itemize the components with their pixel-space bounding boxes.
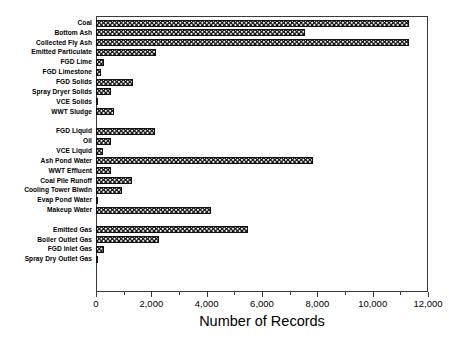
bar-wwt-sludge (96, 108, 114, 115)
y-axis-label-makeup-water: Makeup Water (0, 206, 92, 213)
x-tick-0 (96, 292, 97, 297)
x-tick-label-6000: 6,000 (250, 298, 274, 309)
x-tick-label-12000: 12,000 (413, 298, 442, 309)
y-axis-label-ash-pond-water: Ash Pond Water (0, 157, 92, 164)
y-axis-label-fgd-limestone: FGD Limestone (0, 68, 92, 75)
y-axis-label-wwt-effluent: WWT Effluent (0, 167, 92, 174)
y-axis-label-bottom-ash: Bottom Ash (0, 29, 92, 36)
x-tick-8000 (317, 292, 318, 297)
y-axis-label-vce-liquid: VCE Liquid (0, 147, 92, 154)
x-tick-label-4000: 4,000 (195, 298, 219, 309)
x-tick-label-0: 0 (93, 298, 98, 309)
bar-vce-liquid (96, 148, 103, 155)
bar-ash-pond-water (96, 157, 313, 164)
y-axis-label-emitted-gas: Emitted Gas (0, 226, 92, 233)
bar-wwt-effluent (96, 167, 111, 174)
bar-coal (96, 20, 409, 27)
x-tick-10000 (373, 292, 374, 297)
y-axis-label-spray-dryer-solids: Spray Dryer Solids (0, 88, 92, 95)
y-axis-label-fgd-solids: FGD Solids (0, 78, 92, 85)
bar-makeup-water (96, 207, 211, 214)
bar-fgd-liquid (96, 128, 155, 135)
x-tick-6000 (262, 292, 263, 297)
bar-fgd-inlet-gas (96, 246, 104, 253)
y-axis-label-spray-dry-outlet-gas: Spray Dry Outlet Gas (0, 255, 92, 262)
bar-emitted-particulate (96, 49, 156, 56)
x-axis-title: Number of Records (96, 313, 428, 329)
bar-oil (96, 138, 111, 145)
x-tick-2000 (151, 292, 152, 297)
bar-emitted-gas (96, 226, 248, 233)
bar-bottom-ash (96, 29, 305, 36)
bar-fgd-lime (96, 59, 104, 66)
y-axis-label-oil: Oil (0, 137, 92, 144)
y-axis-label-evap-pond-water: Evap Pond Water (0, 196, 92, 203)
x-tick-label-10000: 10,000 (358, 298, 387, 309)
x-tick-4000 (207, 292, 208, 297)
x-tick-label-8000: 8,000 (305, 298, 329, 309)
y-axis-label-coal: Coal (0, 19, 92, 26)
bar-boiler-outlet-gas (96, 236, 159, 243)
bar-vce-solids (96, 98, 98, 105)
bar-cooling-tower-blwdn (96, 187, 122, 194)
x-tick-12000 (428, 292, 429, 297)
y-axis-label-vce-solids: VCE Solids (0, 98, 92, 105)
y-axis-label-cooling-tower-blwdn: Cooling Tower Blwdn (0, 186, 92, 193)
x-axis-tick-labels: 02,0004,0006,0008,00010,00012,000 (0, 298, 455, 312)
y-axis-label-fgd-lime: FGD Lime (0, 58, 92, 65)
bars-layer (96, 16, 428, 292)
bar-spray-dry-outlet-gas (96, 256, 98, 263)
y-axis-label-fgd-inlet-gas: FGD Inlet Gas (0, 245, 92, 252)
y-axis-label-collected-fly-ash: Collected Fly Ash (0, 39, 92, 46)
bar-chart-figure: CoalBottom AshCollected Fly AshEmitted P… (0, 0, 455, 340)
y-axis-label-fgd-liquid: FGD Liquid (0, 127, 92, 134)
y-axis-label-coal-pile-runoff: Coal Pile Runoff (0, 177, 92, 184)
x-tick-label-2000: 2,000 (139, 298, 163, 309)
bar-fgd-solids (96, 79, 133, 86)
bar-evap-pond-water (96, 197, 98, 204)
y-axis-label-boiler-outlet-gas: Boiler Outlet Gas (0, 236, 92, 243)
bar-collected-fly-ash (96, 39, 409, 46)
bar-coal-pile-runoff (96, 177, 132, 184)
y-axis-category-labels: CoalBottom AshCollected Fly AshEmitted P… (0, 16, 92, 292)
bar-fgd-limestone (96, 69, 101, 76)
y-axis-label-emitted-particulate: Emitted Particulate (0, 48, 92, 55)
y-axis-label-wwt-sludge: WWT Sludge (0, 108, 92, 115)
bar-spray-dryer-solids (96, 88, 111, 95)
